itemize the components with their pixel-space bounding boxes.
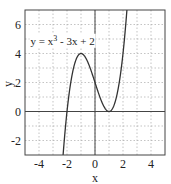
y-tick-label: -2 [11,134,21,148]
y-tick-label: 0 [15,105,21,119]
annotation-part: y = x [31,35,54,47]
x-tick-label: 2 [120,157,126,171]
y-axis-label: y [1,81,15,87]
chart: y = x3 - 3x + 2 -4-2024 -20246 x y [0,0,171,184]
x-tick-label: 4 [148,157,154,171]
y-tick-label: 6 [15,18,21,32]
y-tick-label: 2 [15,76,21,90]
x-tick-label: -2 [62,157,72,171]
annotation-label: y = x3 - 3x + 2 [31,34,95,47]
x-tick-label: -4 [34,157,44,171]
x-tick-label: 0 [92,157,98,171]
annotation-part: - 3x + 2 [57,35,94,47]
annotation-layer: y = x3 - 3x + 2 [30,34,96,48]
y-tick-label: 4 [15,47,21,61]
x-tick-labels: -4-2024 [34,157,154,171]
x-axis-label: x [92,171,98,184]
